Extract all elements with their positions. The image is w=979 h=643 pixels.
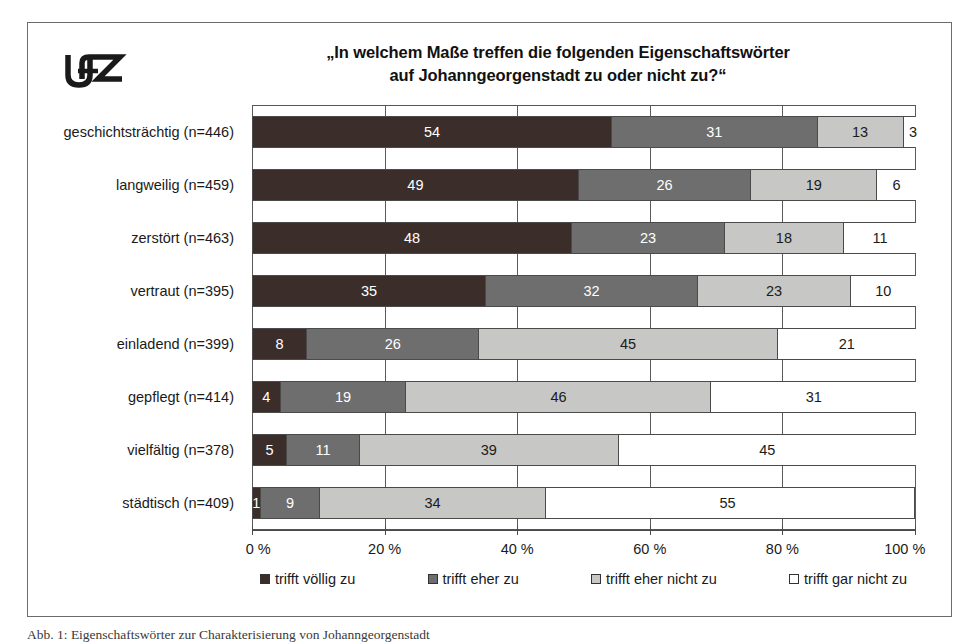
plot-area: 5431133492619648231811353223108264521419… [252,105,915,530]
bar-value-label: 8 [275,336,283,352]
bar-segment: 10 [850,276,916,306]
bar-segment: 45 [618,435,916,465]
bar-value-label: 45 [620,336,636,352]
bar-rows: 5431133492619648231811353223108264521419… [252,105,915,530]
bar-row: 4194631 [252,381,915,413]
bar-value-label: 34 [424,495,440,511]
bar-segment: 19 [280,382,406,412]
bar-segment: 23 [697,276,849,306]
bar-segment: 1 [253,488,260,518]
bar-segment: 11 [843,223,916,253]
axis-tick [517,526,518,535]
legend-item: trifft völlig zu [260,571,355,587]
bar-row: 5113945 [252,434,915,466]
bar-segment: 11 [286,435,359,465]
axis-tick-label: 100 % [884,541,925,557]
bar-row: 48231811 [252,222,915,254]
bar-value-label: 26 [656,177,672,193]
bar-segment: 9 [260,488,320,518]
bar-value-label: 3 [909,124,917,140]
bar-segment: 45 [478,329,776,359]
bar-value-label: 49 [407,177,423,193]
legend-swatch [428,574,438,584]
bar-segment: 54 [253,117,611,147]
axis-tick-label: 0 % [246,541,271,557]
category-label: zerstört (n=463) [28,222,234,254]
category-label: geschichtsträchtig (n=446) [28,116,234,148]
bar-value-label: 4 [262,389,270,405]
legend-label: trifft eher nicht zu [606,571,717,587]
bar-segment: 13 [817,117,903,147]
bar-segment: 21 [777,329,916,359]
bar-value-label: 31 [806,389,822,405]
figure-caption: Abb. 1: Eigenschaftswörter zur Charakter… [27,627,957,643]
category-label: vertraut (n=395) [28,275,234,307]
bar-value-label: 45 [759,442,775,458]
bar-segment: 34 [319,488,544,518]
axis-tick-label: 40 % [501,541,534,557]
category-label: einladend (n=399) [28,328,234,360]
chart-title-line-2: auf Johanngeorgenstadt zu oder nicht zu?… [228,64,888,87]
bar-value-label: 54 [424,124,440,140]
bar-value-label: 13 [852,124,868,140]
legend-item: trifft eher zu [428,571,519,587]
bar-value-label: 35 [361,283,377,299]
bar-row: 35322310 [252,275,915,307]
bar-value-label: 39 [481,442,497,458]
axis-tick-label: 20 % [368,541,401,557]
axis-tick-label: 60 % [633,541,666,557]
category-axis-labels: geschichtsträchtig (n=446)langweilig (n=… [28,105,234,530]
bar-segment: 23 [571,223,723,253]
bar-segment: 5 [253,435,286,465]
legend-swatch [789,574,799,584]
bar-segment: 39 [359,435,618,465]
bar-segment: 26 [306,329,478,359]
category-label: vielfältig (n=378) [28,434,234,466]
bar-value-label: 9 [286,495,294,511]
bar-segment: 31 [710,382,916,412]
bar-segment: 18 [724,223,843,253]
bar-value-label: 18 [776,230,792,246]
axis-tick [915,526,916,535]
bar-value-label: 19 [335,389,351,405]
bar-segment: 4 [253,382,280,412]
bar-row: 5431133 [252,116,915,148]
category-label: gepflegt (n=414) [28,381,234,413]
axis-tick [385,526,386,535]
bar-segment: 46 [405,382,710,412]
bar-segment: 49 [253,170,578,200]
bar-segment: 32 [485,276,697,306]
bar-segment: 31 [611,117,817,147]
bar-value-label: 32 [584,283,600,299]
bar-value-label: 5 [266,442,274,458]
bar-segment: 19 [750,170,876,200]
legend-label: trifft völlig zu [275,571,355,587]
bar-value-label: 10 [875,283,891,299]
legend-label: trifft eher zu [443,571,519,587]
value-axis: 0 %20 %40 %60 %80 %100 % [252,530,915,564]
axis-tick [782,526,783,535]
bar-row: 4926196 [252,169,915,201]
bar-segment: 26 [578,170,750,200]
bar-value-label: 11 [872,230,887,246]
chart-title: „In welchem Maße treffen die folgenden E… [228,41,888,87]
bar-value-label: 26 [385,336,401,352]
bar-value-label: 31 [706,124,722,140]
bar-segment: 8 [253,329,306,359]
chart-title-line-1: „In welchem Maße treffen die folgenden E… [228,41,888,64]
bar-value-label: 23 [640,230,656,246]
bar-value-label: 19 [806,177,822,193]
bar-row: 8264521 [252,328,915,360]
value-axis-line [252,530,915,531]
bar-value-label: 23 [766,283,782,299]
category-label: langweilig (n=459) [28,169,234,201]
bar-value-label: 11 [316,442,331,458]
legend-swatch [591,574,601,584]
bar-row: 193455 [252,487,915,519]
legend-label: trifft gar nicht zu [804,571,907,587]
bar-segment: 6 [876,170,916,200]
bar-segment: 3 [903,117,923,147]
bar-value-label: 46 [550,389,566,405]
bar-segment: 35 [253,276,485,306]
bar-value-label: 48 [404,230,420,246]
